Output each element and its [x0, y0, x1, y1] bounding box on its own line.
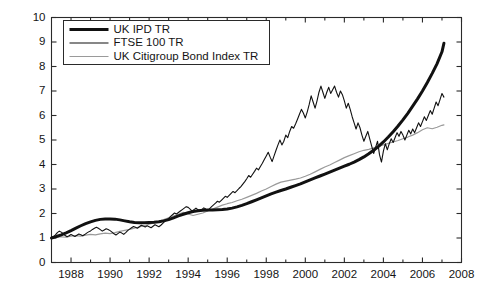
x-axis-tick-label: 2000 [293, 268, 319, 280]
x-axis-tick-label: 2004 [371, 268, 397, 280]
line-chart: 0123456789101988199019921994199619982000… [0, 0, 484, 287]
x-axis-tick-label: 1994 [175, 268, 201, 280]
x-axis-tick-label: 1998 [253, 268, 279, 280]
y-axis-tick-label: 9 [39, 35, 45, 47]
y-axis-tick-label: 10 [33, 11, 46, 23]
x-axis-tick-label: 2006 [410, 268, 436, 280]
y-axis-tick-label: 0 [39, 256, 45, 268]
legend-label: UK Citigroup Bond Index TR [114, 50, 259, 62]
y-axis-tick-label: 6 [39, 109, 45, 121]
y-axis-tick-label: 1 [39, 231, 45, 243]
x-axis-tick-label: 1990 [97, 268, 123, 280]
y-axis-tick-label: 3 [39, 182, 45, 194]
y-axis-tick-label: 4 [39, 158, 46, 170]
x-axis-tick-label: 2008 [449, 268, 475, 280]
y-axis-tick-label: 5 [39, 133, 45, 145]
x-axis-tick-label: 1992 [136, 268, 162, 280]
series-line [52, 86, 444, 238]
y-axis-tick-label: 8 [39, 60, 45, 72]
y-axis-tick-label: 2 [39, 207, 45, 219]
chart-container: 0123456789101988199019921994199619982000… [0, 0, 484, 287]
series-line [52, 43, 444, 238]
x-axis-tick-label: 1988 [58, 268, 84, 280]
y-axis-tick-label: 7 [39, 84, 45, 96]
legend-label: UK IPD TR [114, 23, 171, 35]
x-axis-tick-label: 2002 [332, 268, 358, 280]
x-axis-tick-label: 1996 [214, 268, 240, 280]
legend-label: FTSE 100 TR [114, 36, 184, 48]
